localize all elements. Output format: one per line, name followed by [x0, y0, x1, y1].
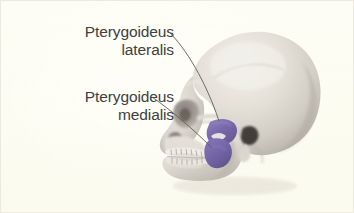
figure-canvas: Pterygoideus lateralis Pterygoideus medi… [0, 0, 354, 213]
leader-line-medialis [152, 97, 212, 148]
leader-line-lateralis [168, 31, 219, 121]
leader-lines [0, 0, 354, 213]
